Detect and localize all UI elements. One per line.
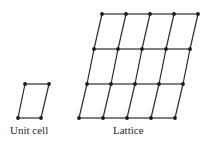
lattice-point (148, 12, 152, 16)
lattice-point (92, 47, 96, 51)
lattice-point (196, 12, 200, 16)
lattice-edge (79, 84, 87, 118)
unit-cell-label: Unit cell (10, 124, 48, 136)
lattice-edge (94, 14, 102, 49)
lattice-point (133, 82, 137, 86)
lattice-grid (77, 12, 200, 120)
lattice-point (23, 82, 27, 86)
unit-cell-shape (16, 82, 51, 120)
lattice-point (109, 82, 113, 86)
lattice-point (39, 116, 43, 120)
lattice-edge (183, 49, 190, 84)
lattice-edge (111, 49, 118, 84)
lattice-edge (190, 14, 198, 49)
lattice-point (140, 47, 144, 51)
lattice-point (149, 116, 153, 120)
lattice-edge (175, 84, 183, 118)
lattice-point (16, 116, 20, 120)
lattice-edge (41, 84, 49, 118)
lattice-point (100, 12, 104, 16)
lattice-point (157, 82, 161, 86)
lattice-point (172, 12, 176, 16)
lattice-edge (87, 49, 94, 84)
lattice-edge (18, 84, 25, 118)
lattice-point (164, 47, 168, 51)
lattice-point (125, 116, 129, 120)
lattice-point (124, 12, 128, 16)
lattice-point (101, 116, 105, 120)
lattice-point (47, 82, 51, 86)
lattice-edge (159, 49, 166, 84)
lattice-point (188, 47, 192, 51)
lattice-edge (135, 49, 142, 84)
lattice-point (173, 116, 177, 120)
lattice-edge (127, 84, 135, 118)
lattice-edge (151, 84, 159, 118)
lattice-edge (103, 84, 111, 118)
lattice-point (85, 82, 89, 86)
lattice-edge (166, 14, 174, 49)
lattice-point (181, 82, 185, 86)
lattice-edge (118, 14, 126, 49)
lattice-point (116, 47, 120, 51)
lattice-label: Lattice (113, 124, 144, 136)
lattice-edge (142, 14, 150, 49)
lattice-point (77, 116, 81, 120)
